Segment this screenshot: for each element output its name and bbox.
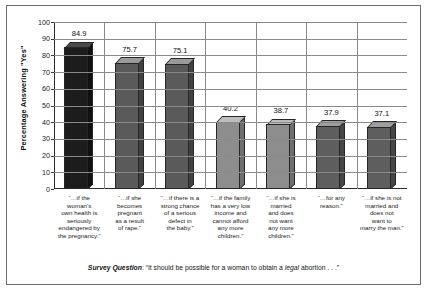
bar-value-label: 84.9 (61, 29, 97, 38)
gridline-vertical (357, 22, 358, 189)
bar-side-face (189, 59, 194, 189)
x-category-label: “…if there is astrong chanceof a serious… (154, 194, 206, 232)
bar-value-label: 75.1 (162, 46, 198, 55)
bar-front-face (266, 124, 290, 189)
x-axis-category-labels: “…if thewoman’sown health isseriouslyend… (54, 194, 407, 260)
x-category-label: “…if the familyhas a very lowincome andc… (205, 194, 257, 240)
y-tick-label: 50 (42, 102, 50, 109)
plot-area: 1009080706050403020100 84.975.775.140.23… (54, 22, 407, 189)
x-category-label: “…if thewoman’sown health isseriouslyend… (53, 194, 105, 240)
bar-value-label: 75.7 (112, 45, 148, 54)
y-tick-mark (51, 189, 55, 190)
bar-value-label: 37.9 (313, 108, 349, 117)
gridline-vertical (205, 22, 206, 189)
gridline-vertical (306, 22, 307, 189)
y-tick-label: 80 (42, 52, 50, 59)
y-tick-label: 40 (42, 119, 50, 126)
caption-body-after: abortion . . .” (299, 264, 339, 271)
gridline-horizontal (54, 122, 407, 123)
y-tick-label: 100 (38, 19, 50, 26)
gridline-vertical (104, 22, 105, 189)
caption-lead: Survey Question (88, 264, 142, 271)
y-axis-title: Percentage Answering "Yes" (17, 24, 31, 172)
x-category-label: “…if she ismarriedand doesnot wantany mo… (255, 194, 307, 240)
y-tick-label: 30 (42, 135, 50, 142)
bar[interactable]: 84.9 (64, 47, 94, 189)
y-tick-label: 90 (42, 35, 50, 42)
gridline-horizontal (54, 172, 407, 173)
y-tick-label: 20 (42, 152, 50, 159)
gridline-horizontal (54, 55, 407, 56)
chart-figure: Percentage Answering "Yes" 1009080706050… (6, 5, 421, 285)
bar-side-face (139, 58, 144, 189)
x-category-label: “…for anyreason.” (305, 194, 357, 209)
gridline-horizontal (54, 22, 407, 23)
bar[interactable]: 75.1 (165, 64, 195, 189)
gridline-horizontal (54, 89, 407, 90)
caption-body-before: : “It should be possible for a woman to … (142, 264, 285, 271)
gridline-vertical (155, 22, 156, 189)
gridline-horizontal (54, 139, 407, 140)
caption-emphasis: legal (285, 264, 299, 271)
bar-front-face (367, 127, 391, 189)
gridline-horizontal (54, 72, 407, 73)
bar-front-face (316, 126, 340, 189)
chart-caption: Survey Question: “It should be possible … (7, 264, 420, 271)
bar-front-face (115, 63, 139, 189)
y-axis-tick-labels: 1009080706050403020100 (30, 22, 50, 189)
x-category-label: “…if she is notmarried anddoes notwant t… (356, 194, 408, 232)
gridline-horizontal (54, 106, 407, 107)
y-tick-label: 60 (42, 85, 50, 92)
bar-side-face (240, 117, 245, 189)
bar-side-face (290, 119, 295, 189)
gridline-vertical (256, 22, 257, 189)
bar[interactable]: 75.7 (115, 63, 145, 189)
bar-front-face (64, 47, 88, 189)
y-tick-label: 70 (42, 69, 50, 76)
bar-value-label: 38.7 (263, 106, 299, 115)
bar-value-label: 37.1 (364, 109, 400, 118)
y-tick-label: 10 (42, 169, 50, 176)
gridline-horizontal (54, 39, 407, 40)
x-category-label: “…if shebecomespregnantas a resultof rap… (104, 194, 156, 232)
y-tick-label: 0 (46, 186, 50, 193)
bar-front-face (165, 64, 189, 189)
bar[interactable]: 37.1 (367, 127, 397, 189)
gridline-horizontal (54, 156, 407, 157)
bar-side-face (88, 42, 93, 189)
bar[interactable]: 37.9 (316, 126, 346, 189)
bar[interactable]: 38.7 (266, 124, 296, 189)
